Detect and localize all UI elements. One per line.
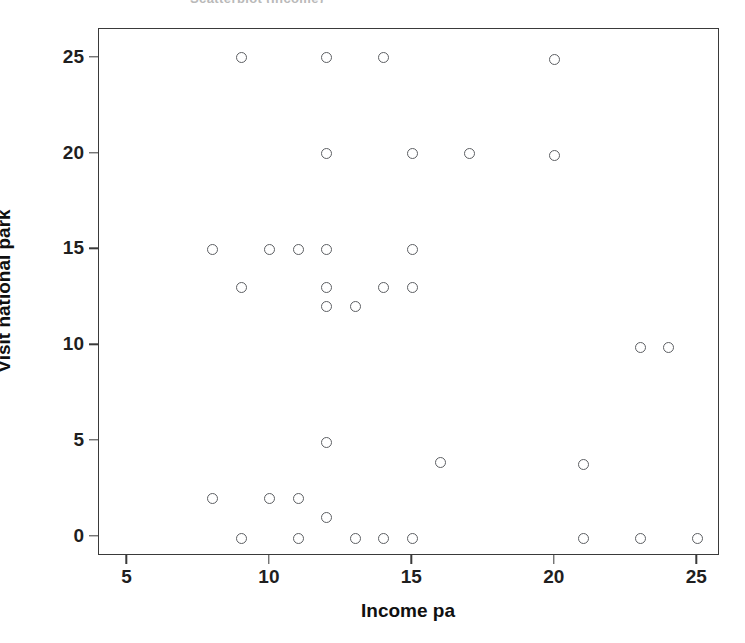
x-tick-mark xyxy=(553,555,554,564)
data-point xyxy=(549,54,560,65)
data-point xyxy=(407,148,418,159)
data-point xyxy=(435,457,446,468)
data-point xyxy=(321,148,332,159)
data-point xyxy=(378,52,389,63)
data-point xyxy=(321,437,332,448)
data-point xyxy=(378,533,389,544)
data-point xyxy=(464,148,475,159)
data-point xyxy=(207,493,218,504)
scatter-plot-figure: Scatterplot (Income) Visit national park… xyxy=(0,0,745,643)
data-point xyxy=(236,533,247,544)
data-point xyxy=(293,244,304,255)
data-point xyxy=(321,244,332,255)
data-point xyxy=(207,244,218,255)
data-points-layer xyxy=(99,29,718,554)
x-tick-mark xyxy=(126,555,127,564)
data-point xyxy=(350,301,361,312)
x-tick-label: 15 xyxy=(401,566,422,588)
data-point xyxy=(321,512,332,523)
x-tick-label: 20 xyxy=(543,566,564,588)
data-point xyxy=(350,533,361,544)
data-point xyxy=(293,533,304,544)
data-point xyxy=(236,52,247,63)
data-point xyxy=(407,282,418,293)
x-tick-mark xyxy=(411,555,412,564)
data-point xyxy=(578,533,589,544)
x-tick-label: 5 xyxy=(121,566,132,588)
x-tick-label: 10 xyxy=(258,566,279,588)
data-point xyxy=(692,533,703,544)
data-point xyxy=(321,301,332,312)
data-point xyxy=(549,150,560,161)
plot-area xyxy=(98,28,719,555)
data-point xyxy=(321,52,332,63)
data-point xyxy=(293,493,304,504)
data-point xyxy=(264,493,275,504)
data-point xyxy=(635,342,646,353)
x-tick-mark xyxy=(696,555,697,564)
data-point xyxy=(663,342,674,353)
x-tick-mark xyxy=(268,555,269,564)
data-point xyxy=(635,533,646,544)
data-point xyxy=(578,459,589,470)
data-point xyxy=(407,533,418,544)
data-point xyxy=(407,244,418,255)
data-point xyxy=(378,282,389,293)
x-tick-label: 25 xyxy=(686,566,707,588)
data-point xyxy=(264,244,275,255)
data-point xyxy=(321,282,332,293)
data-point xyxy=(236,282,247,293)
